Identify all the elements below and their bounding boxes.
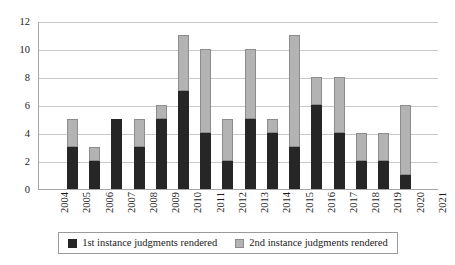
bar-segment-first-instance [67,147,78,189]
bar-segment-first-instance [245,119,256,189]
legend-entry[interactable]: 1st instance judgments rendered [68,238,217,249]
y-tick-label: 6 [25,101,30,112]
y-tick-label: 2 [25,157,30,168]
bar-segment-second-instance [89,147,100,161]
bar-segment-first-instance [400,175,411,189]
bar-column [245,49,256,189]
plot-wrapper: 024681012 200420052006200720082009201020… [0,0,455,200]
y-tick-label: 12 [20,17,31,28]
legend-swatch-icon [235,239,244,248]
bar-column [111,119,122,189]
bar-segment-second-instance [156,105,167,119]
bar-column [156,105,167,189]
bar-segment-first-instance [156,119,167,189]
x-tick-label: 2020 [416,192,427,238]
legend-label: 2nd instance judgments rendered [249,238,388,249]
bar-segment-first-instance [356,161,367,189]
bar-segment-second-instance [178,35,189,91]
bar-segment-first-instance [311,105,322,189]
stacked-bar-chart: 024681012 200420052006200720082009201020… [0,0,455,265]
x-tick-label: 2021 [438,192,449,238]
bar-segment-first-instance [267,133,278,189]
bar-segment-first-instance [222,161,233,189]
bar-segment-second-instance [400,105,411,175]
bar-segment-second-instance [311,77,322,105]
bar-segment-second-instance [134,119,145,147]
bar-segment-second-instance [200,49,211,133]
bar-segment-first-instance [111,119,122,189]
bar-segment-second-instance [245,49,256,119]
bar-column [134,119,145,189]
legend-swatch-icon [68,239,77,248]
bar-column [356,133,367,189]
plot-area [38,22,438,190]
y-tick-label: 4 [25,129,30,140]
bar-segment-first-instance [289,147,300,189]
bar-segment-second-instance [67,119,78,147]
bar-column [200,49,211,189]
bar-segment-second-instance [378,133,389,161]
bar-segment-first-instance [200,133,211,189]
bar-column [378,133,389,189]
chart-legend: 1st instance judgments rendered2nd insta… [58,232,398,254]
bar-column [267,119,278,189]
bar-segment-second-instance [334,77,345,133]
bar-segment-second-instance [267,119,278,133]
legend-label: 1st instance judgments rendered [82,238,217,249]
bar-column [311,77,322,189]
bar-segment-first-instance [178,91,189,189]
bar-segment-second-instance [356,133,367,161]
bar-column [222,119,233,189]
bar-column [67,119,78,189]
bar-column [89,147,100,189]
y-tick-label: 10 [20,45,31,56]
bar-segment-first-instance [134,147,145,189]
bars-layer [39,22,438,189]
y-tick-label: 0 [25,185,30,196]
y-tick-label: 8 [25,73,30,84]
legend-entry[interactable]: 2nd instance judgments rendered [235,238,388,249]
bar-column [178,35,189,189]
bar-column [289,35,300,189]
bar-segment-second-instance [289,35,300,147]
y-axis: 024681012 [0,0,34,200]
bar-segment-second-instance [222,119,233,161]
bar-segment-first-instance [378,161,389,189]
bar-column [334,77,345,189]
bar-segment-first-instance [334,133,345,189]
bar-segment-first-instance [89,161,100,189]
bar-column [400,105,411,189]
